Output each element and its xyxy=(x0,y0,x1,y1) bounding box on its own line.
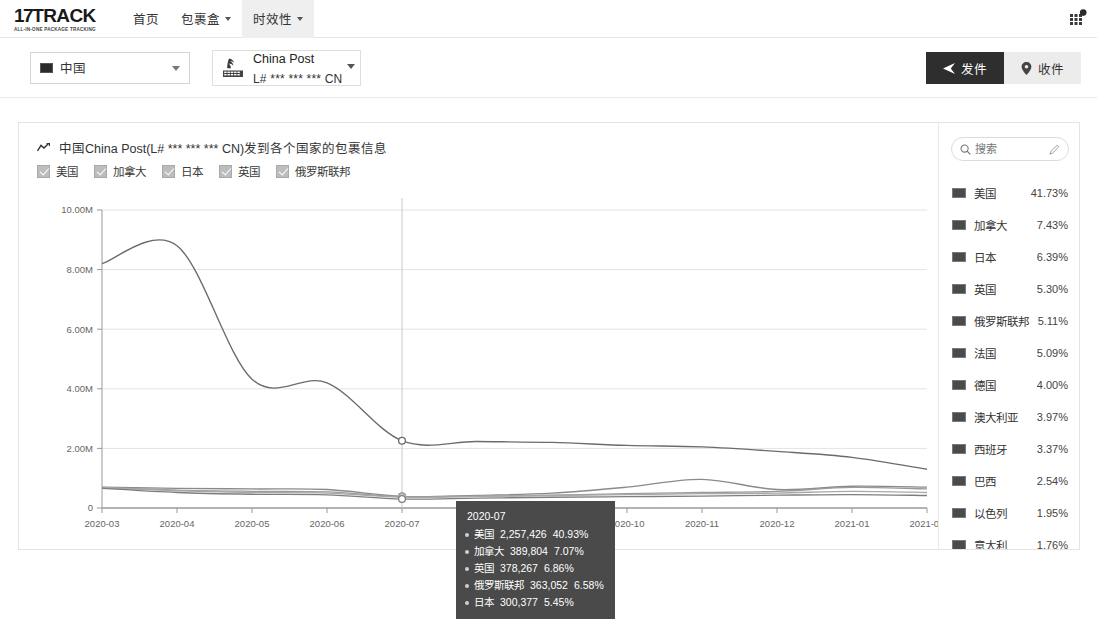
series-dot-icon xyxy=(465,601,469,605)
tooltip-value: 300,377 xyxy=(500,594,538,611)
tooltip-row: 英国378,2676.86% xyxy=(465,560,604,577)
country-list: 美国41.73%加拿大7.43%日本6.39%英国5.30%俄罗斯联邦5.11%… xyxy=(939,177,1079,549)
pencil-icon[interactable] xyxy=(1049,144,1060,155)
legend-label: 加拿大 xyxy=(113,163,146,179)
country-name: 意大利 xyxy=(974,537,1037,549)
country-name: 加拿大 xyxy=(974,217,1037,233)
logo-wordmark: 17TRACK xyxy=(14,6,96,25)
legend-label: 英国 xyxy=(238,163,260,179)
main-nav: 首页 包裹盒 时效性 xyxy=(122,0,314,38)
tooltip-row: 日本300,3775.45% xyxy=(465,594,604,611)
country-list-item[interactable]: 巴西2.54% xyxy=(939,465,1079,497)
checkbox-icon[interactable] xyxy=(94,165,107,178)
country-list-item[interactable]: 意大利1.76% xyxy=(939,529,1079,549)
carrier-code: L# *** *** *** CN xyxy=(253,72,342,86)
it-flag-icon xyxy=(952,540,966,549)
country-percent: 1.95% xyxy=(1037,507,1068,519)
tooltip-percent: 6.58% xyxy=(574,577,604,594)
country-percent: 4.00% xyxy=(1037,379,1068,391)
country-select[interactable]: 中国 xyxy=(30,52,190,84)
tooltip-percent: 6.86% xyxy=(544,560,574,577)
country-list-item[interactable]: 美国41.73% xyxy=(939,177,1079,209)
chevron-down-icon xyxy=(225,17,231,21)
legend-item-ca[interactable]: 加拿大 xyxy=(94,163,146,179)
us-flag-icon xyxy=(952,188,966,198)
au-flag-icon xyxy=(952,412,966,422)
app-header: 17TRACK ALL-IN-ONE PACKAGE TRACKING 首页 包… xyxy=(0,0,1097,38)
checkbox-icon[interactable] xyxy=(219,165,232,178)
country-percent: 2.54% xyxy=(1037,475,1068,487)
send-icon xyxy=(943,63,955,74)
country-percent: 5.11% xyxy=(1038,315,1068,327)
nav-item-home[interactable]: 首页 xyxy=(122,0,170,38)
filter-bar: 中国 China Post L# *** *** *** CN xyxy=(0,38,1097,98)
chart-area: 中国China Post(L# *** *** *** CN)发到各个国家的包裹… xyxy=(19,123,938,549)
chart-panel: 中国China Post(L# *** *** *** CN)发到各个国家的包裹… xyxy=(18,122,1080,550)
tooltip-value: 2,257,426 xyxy=(500,526,547,543)
tooltip-value: 363,052 xyxy=(530,577,568,594)
search-box[interactable] xyxy=(951,137,1069,161)
country-list-item[interactable]: 法国5.09% xyxy=(939,337,1079,369)
legend-label: 俄罗斯联邦 xyxy=(295,163,350,179)
nav-item-parcels-label: 包裹盒 xyxy=(181,9,220,28)
country-percent: 3.97% xyxy=(1037,411,1068,423)
legend-item-jp[interactable]: 日本 xyxy=(162,163,203,179)
country-name: 日本 xyxy=(974,249,1037,265)
x-axis-tick-label: 2020-03 xyxy=(85,518,120,529)
country-name: 美国 xyxy=(974,185,1031,201)
series-dot-icon xyxy=(465,584,469,588)
country-list-item[interactable]: 德国4.00% xyxy=(939,369,1079,401)
tooltip-percent: 5.45% xyxy=(544,594,574,611)
country-sidebar: 美国41.73%加拿大7.43%日本6.39%英国5.30%俄罗斯联邦5.11%… xyxy=(938,123,1079,549)
checkbox-icon[interactable] xyxy=(37,165,50,178)
country-name: 俄罗斯联邦 xyxy=(974,313,1038,329)
direction-button-group: 发件 收件 xyxy=(926,52,1081,84)
legend-item-us[interactable]: 美国 xyxy=(37,163,78,179)
tooltip-date: 2020-07 xyxy=(465,508,604,525)
logo[interactable]: 17TRACK ALL-IN-ONE PACKAGE TRACKING xyxy=(14,6,96,32)
tooltip-percent: 7.07% xyxy=(554,543,584,560)
country-list-item[interactable]: 加拿大7.43% xyxy=(939,209,1079,241)
location-pin-icon xyxy=(1021,62,1032,75)
country-list-item[interactable]: 以色列1.95% xyxy=(939,497,1079,529)
jp-flag-icon xyxy=(952,252,966,262)
br-flag-icon xyxy=(952,476,966,486)
legend-item-ru[interactable]: 俄罗斯联邦 xyxy=(276,163,350,179)
line-chart[interactable]: 02.00M4.00M6.00M8.00M10.00M2020-032020-0… xyxy=(19,198,939,551)
checkbox-icon[interactable] xyxy=(162,165,175,178)
ru-flag-icon xyxy=(952,316,966,326)
country-list-item[interactable]: 俄罗斯联邦5.11% xyxy=(939,305,1079,337)
country-name: 巴西 xyxy=(974,473,1037,489)
tooltip-percent: 40.93% xyxy=(553,526,589,543)
data-point-marker[interactable] xyxy=(399,496,406,503)
legend-label: 美国 xyxy=(56,163,78,179)
country-list-item[interactable]: 西班牙3.37% xyxy=(939,433,1079,465)
tooltip-value: 378,267 xyxy=(500,560,538,577)
receive-button[interactable]: 收件 xyxy=(1004,52,1081,84)
checkbox-icon[interactable] xyxy=(276,165,289,178)
nav-item-parcels[interactable]: 包裹盒 xyxy=(170,0,242,38)
legend-label: 日本 xyxy=(181,163,203,179)
country-list-item[interactable]: 澳大利亚3.97% xyxy=(939,401,1079,433)
data-point-marker[interactable] xyxy=(399,437,406,444)
legend-item-gb[interactable]: 英国 xyxy=(219,163,260,179)
country-list-item[interactable]: 英国5.30% xyxy=(939,273,1079,305)
x-axis-tick-label: 2020-07 xyxy=(385,518,420,529)
send-button[interactable]: 发件 xyxy=(926,52,1004,84)
page-title: 中国China Post(L# *** *** *** CN)发到各个国家的包裹… xyxy=(37,138,387,157)
series-dot-icon xyxy=(465,567,469,571)
nav-item-timeliness[interactable]: 时效性 xyxy=(242,0,314,38)
search-input[interactable] xyxy=(971,143,1049,155)
flag-icon xyxy=(40,63,53,73)
tooltip-country: 英国 xyxy=(474,560,494,577)
es-flag-icon xyxy=(952,444,966,454)
series-line-美国 xyxy=(102,240,927,469)
apps-grid-icon[interactable] xyxy=(1069,9,1087,27)
carrier-select[interactable]: China Post L# *** *** *** CN xyxy=(212,50,361,86)
chart-legend: 美国 加拿大 日本 英国 俄罗斯联邦 xyxy=(37,163,366,179)
receive-button-label: 收件 xyxy=(1038,59,1064,78)
country-list-item[interactable]: 日本6.39% xyxy=(939,241,1079,273)
country-name: 英国 xyxy=(974,281,1037,297)
tooltip-country: 加拿大 xyxy=(474,543,504,560)
x-axis-tick-label: 2021-02 xyxy=(910,518,939,529)
